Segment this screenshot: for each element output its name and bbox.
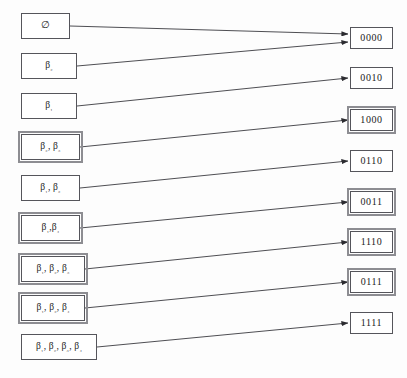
subset-node-label: β₂ (45, 61, 53, 71)
subset-node-label: β₁ (45, 101, 53, 111)
code-node-label: 0111 (361, 277, 383, 287)
code-node-label: 1110 (361, 237, 383, 247)
mapping-arrow (80, 202, 348, 228)
subset-node-label: β₁, β₂, β₃ (36, 264, 69, 274)
subset-node[interactable]: β₂ (21, 53, 77, 79)
mapping-arrow (70, 26, 348, 34)
subset-node-label: β₁, β₂, β₃, β₄ (36, 342, 82, 352)
code-node[interactable]: 1000 (350, 109, 393, 131)
subset-node[interactable]: β₁,β₄ (21, 215, 80, 241)
subset-node[interactable]: β₁, β₂, β₃, β₄ (21, 334, 97, 360)
subset-node-label: ∅ (41, 21, 50, 31)
code-node[interactable]: 0110 (350, 150, 393, 172)
subset-node[interactable]: β₁, β₂ (21, 175, 80, 201)
code-node-label: 0000 (360, 33, 382, 43)
mapping-arrow (97, 323, 348, 347)
mapping-arrow (77, 78, 348, 106)
subset-node-label: β₂, β₃ (40, 142, 60, 152)
mapping-arrow (80, 120, 348, 147)
subset-node[interactable]: β₁ (21, 93, 77, 119)
code-node-label: 1000 (360, 115, 382, 125)
code-node[interactable]: 0011 (350, 191, 393, 213)
subset-node-label: β₁,β₄ (42, 223, 60, 233)
subset-node[interactable]: β₁, β₂, β₃ (21, 256, 85, 282)
code-node[interactable]: 1111 (350, 312, 393, 334)
subset-node[interactable]: ∅ (21, 13, 70, 39)
code-node-label: 1111 (361, 318, 382, 328)
subset-node[interactable]: β₁, β₂, β₄ (21, 295, 85, 321)
diagram-canvas: ∅β₂β₁β₂, β₃β₁, β₂β₁,β₄β₁, β₂, β₃β₁, β₂, … (0, 0, 407, 378)
subset-node-label: β₁, β₂, β₄ (36, 303, 69, 313)
mapping-arrow (85, 282, 348, 308)
code-node[interactable]: 0111 (350, 271, 393, 293)
subset-node[interactable]: β₂, β₃ (21, 134, 80, 160)
mapping-arrow (85, 242, 348, 269)
code-node-label: 0110 (360, 156, 382, 166)
code-node[interactable]: 0000 (350, 27, 393, 49)
code-node[interactable]: 1110 (350, 231, 393, 253)
code-node-label: 0010 (360, 73, 382, 83)
mapping-arrow (77, 42, 348, 66)
code-node[interactable]: 0010 (350, 67, 393, 89)
mapping-arrow (80, 161, 348, 188)
subset-node-label: β₁, β₂ (40, 183, 60, 193)
edge-lines (70, 26, 348, 347)
code-node-label: 0011 (360, 197, 382, 207)
